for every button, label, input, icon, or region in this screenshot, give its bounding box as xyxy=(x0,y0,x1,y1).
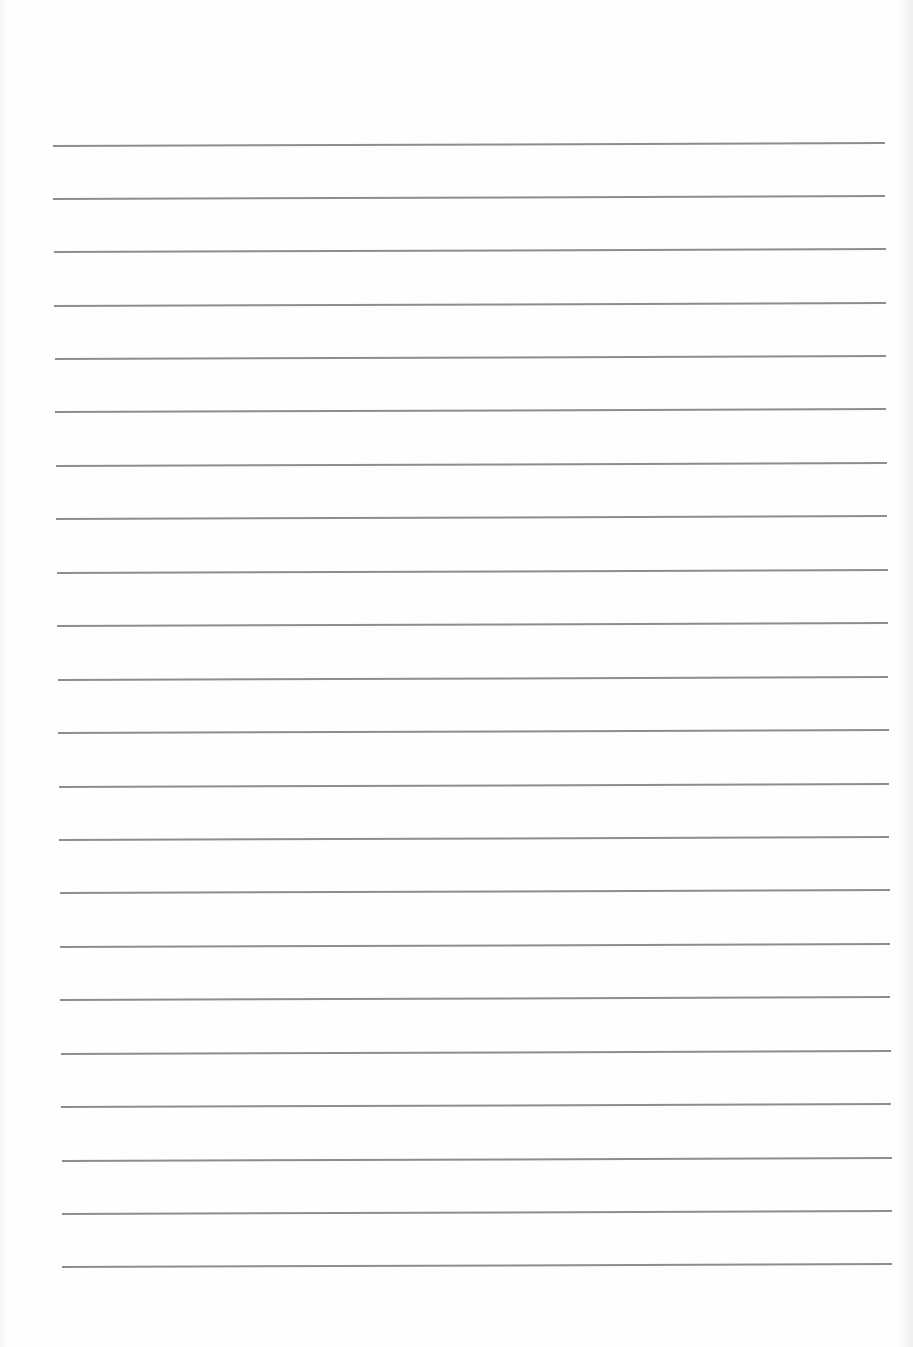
ruled-line xyxy=(56,515,887,519)
ruled-line xyxy=(54,302,886,306)
page-right-edge-shadow xyxy=(899,0,913,1347)
ruled-line xyxy=(62,1210,892,1214)
ruled-line xyxy=(60,889,890,893)
ruled-line xyxy=(60,943,890,947)
ruled-line xyxy=(53,142,885,146)
ruled-line xyxy=(55,408,886,412)
lined-paper-page xyxy=(0,0,913,1347)
ruled-line xyxy=(62,1263,892,1267)
ruled-line xyxy=(54,248,886,252)
ruled-line xyxy=(60,996,890,1000)
ruled-line xyxy=(57,622,888,626)
ruled-line xyxy=(57,569,888,573)
ruled-line xyxy=(56,462,887,466)
ruled-line xyxy=(53,195,885,199)
ruled-line xyxy=(58,676,888,680)
ruled-line xyxy=(62,1157,892,1161)
ruled-line xyxy=(59,783,889,787)
ruled-line xyxy=(61,1103,891,1107)
ruled-line xyxy=(58,729,889,733)
ruled-line xyxy=(61,1050,891,1054)
ruled-line xyxy=(55,355,886,359)
page-left-edge-shadow xyxy=(0,0,6,1347)
ruled-line xyxy=(59,836,889,840)
